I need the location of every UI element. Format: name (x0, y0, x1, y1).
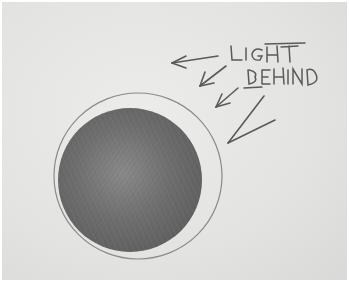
arrow-icon (200, 66, 226, 86)
arrow-icon (228, 96, 275, 143)
sketch-photo (0, 0, 349, 285)
arrow-icon (172, 56, 218, 68)
arrow-icon (216, 88, 238, 107)
shaded-sphere (58, 108, 202, 252)
light-arrows (172, 56, 275, 143)
handwritten-label (231, 43, 317, 88)
sketch-drawing (0, 0, 349, 285)
